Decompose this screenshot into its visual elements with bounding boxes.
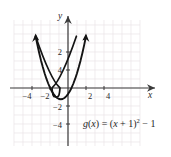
xtick-label-4: 4 (106, 91, 111, 101)
ytick-label-2: 2 (58, 47, 62, 57)
ytick-label-minus4: −4 (53, 120, 63, 130)
xtick-label-2: 2 (88, 91, 92, 101)
equation-annotation: g(x) = (x + 1)2 − 1 (83, 117, 155, 130)
equation-equals: = (99, 118, 110, 129)
equation-trailing-const: 1 (150, 118, 155, 129)
y-axis-label: y (57, 11, 63, 21)
x-axis-label: x (147, 90, 153, 100)
xtick-label-minus2: −2 (40, 91, 49, 101)
xtick-label-minus4: −4 (22, 91, 32, 101)
coordinate-plane: −4 −2 2 4 4 2 −2 −4 x y g(x) = (0, 0, 171, 157)
equation-plus: + (118, 118, 129, 129)
equation-minus: − (140, 118, 151, 129)
y-axis (64, 16, 72, 146)
graph-figure: −4 −2 2 4 4 2 −2 −4 x y g(x) = (0, 0, 171, 157)
